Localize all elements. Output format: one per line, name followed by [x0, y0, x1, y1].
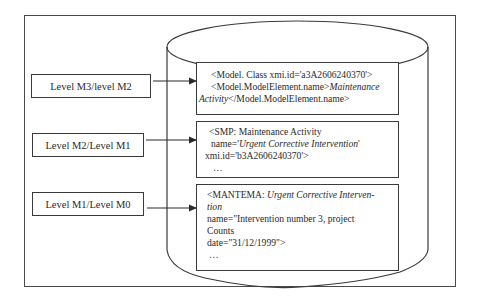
content-line: <SMP: Maintenance Activity [205, 126, 392, 138]
level-label: Level M1/Level M0 [45, 199, 130, 210]
content-line: Activity</Model.ModelElement.name> [197, 93, 392, 105]
content-line: tion [207, 201, 392, 213]
level-box-m3-m2: Level M3/level M2 [31, 74, 151, 98]
content-box-model-class: <Model. Class xmi.id='a3A2606240370'> <M… [196, 62, 399, 115]
content-box-smp: <SMP: Maintenance Activity name='Urgent … [196, 121, 399, 178]
content-line: Counts [207, 225, 392, 237]
content-line: … [207, 249, 392, 261]
content-line: … [205, 162, 392, 174]
content-line: name="Intervention number 3, project [207, 213, 392, 225]
content-line: <MANTEMA: Urgent Corrective Interven- [207, 189, 392, 201]
level-label: Level M2/Level M1 [45, 140, 130, 151]
content-line: name='Urgent Corrective Intervention' [205, 138, 392, 150]
level-box-m2-m1: Level M2/Level M1 [32, 133, 144, 157]
content-line: <Model.ModelElement.name>Maintenance [197, 81, 392, 93]
content-line: xmi.id='b3A2606240370'> [205, 150, 392, 162]
content-line: <Model. Class xmi.id='a3A2606240370'> [197, 69, 392, 81]
content-line: date="31/12/1999"> [207, 237, 392, 249]
level-label: Level M3/level M2 [50, 81, 132, 92]
content-box-mantema: <MANTEMA: Urgent Corrective Interven- ti… [196, 184, 399, 271]
level-box-m1-m0: Level M1/Level M0 [32, 192, 144, 216]
